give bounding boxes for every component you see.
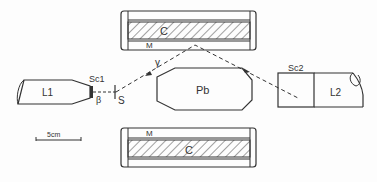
gamma-label: γ xyxy=(155,57,160,68)
beta-label: β xyxy=(96,95,101,105)
lead-block-label: Pb xyxy=(196,84,209,96)
scale-bar-label: 5cm xyxy=(47,131,60,138)
bottom-converter-assembly: M C xyxy=(121,128,256,167)
left-detector-label: L1 xyxy=(42,87,54,98)
scintillator-1-label: Sc1 xyxy=(89,74,105,84)
lead-block: Pb xyxy=(157,68,252,110)
scintillator-2-label: Sc2 xyxy=(288,63,304,73)
top-converter-label: C xyxy=(160,25,168,37)
top-converter-assembly: C M xyxy=(121,11,256,50)
source-region: Sc1 β S xyxy=(89,74,125,106)
diagram-svg: C M M C Pb L1 Sc1 β S γ S xyxy=(0,0,377,182)
right-detector: Sc2 L2 xyxy=(278,63,363,107)
source-label: S xyxy=(118,95,125,106)
scale-bar: 5cm xyxy=(36,131,81,141)
left-detector: L1 xyxy=(17,80,93,104)
right-detector-label: L2 xyxy=(330,87,342,98)
diagram-canvas: C M M C Pb L1 Sc1 β S γ S xyxy=(0,0,377,182)
bottom-moderator-label: M xyxy=(146,129,153,138)
bottom-converter-label: C xyxy=(185,144,193,156)
top-moderator-label: M xyxy=(146,41,153,50)
